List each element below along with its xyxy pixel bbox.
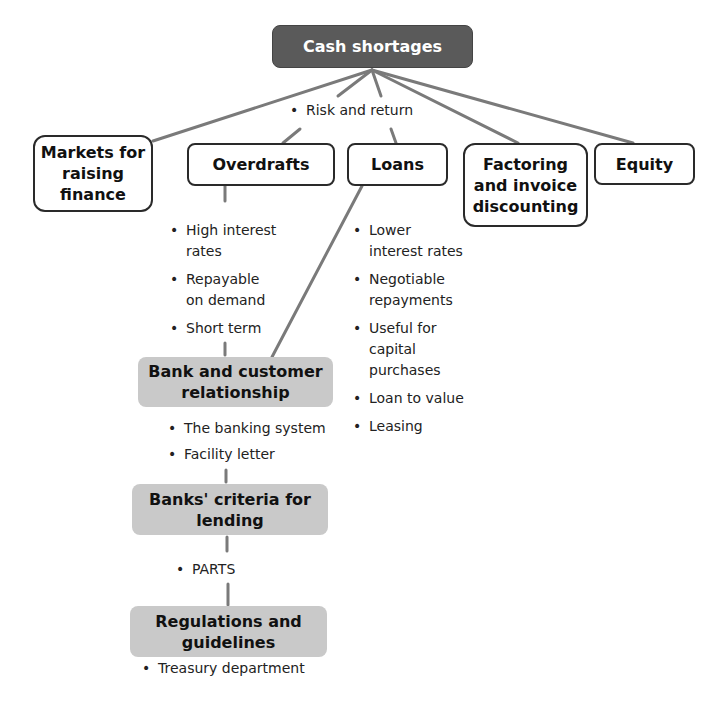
banks-criteria-points: PARTS bbox=[176, 559, 235, 587]
node-cash-shortages: Cash shortages bbox=[272, 25, 473, 68]
overdrafts-points: High interest rates Repayable on demand … bbox=[170, 220, 276, 346]
node-label: Regulations and guidelines bbox=[130, 611, 327, 653]
list-item: PARTS bbox=[176, 559, 235, 580]
list-item: Negotiable repayments bbox=[353, 269, 464, 311]
node-label: Factoring and invoice discounting bbox=[465, 154, 586, 217]
list-item: The banking system bbox=[168, 418, 326, 439]
connector-root-loans-b bbox=[391, 129, 396, 143]
connector-root-overdrafts-a bbox=[338, 70, 372, 96]
list-item: Loan to value bbox=[353, 388, 464, 409]
root-notes: Risk and return bbox=[290, 100, 413, 128]
node-bank-relationship: Bank and customer relationship bbox=[138, 357, 333, 407]
node-factoring: Factoring and invoice discounting bbox=[463, 143, 588, 227]
list-item: Useful for capital purchases bbox=[353, 318, 464, 381]
bank-relationship-points: The banking system Facility letter bbox=[168, 418, 326, 472]
node-label: Equity bbox=[616, 154, 673, 175]
list-item: Repayable on demand bbox=[170, 269, 276, 311]
node-label: Bank and customer relationship bbox=[138, 361, 333, 403]
node-overdrafts: Overdrafts bbox=[187, 143, 335, 186]
node-equity: Equity bbox=[594, 143, 695, 185]
loans-points: Lower interest rates Negotiable repaymen… bbox=[353, 220, 464, 444]
regulations-points: Treasury department bbox=[142, 658, 305, 686]
node-label: Overdrafts bbox=[212, 154, 309, 175]
connector-loans-bank bbox=[272, 186, 362, 357]
node-regulations: Regulations and guidelines bbox=[130, 606, 327, 657]
node-banks-criteria: Banks' criteria for lending bbox=[132, 484, 328, 535]
list-item: Short term bbox=[170, 318, 276, 339]
node-label: Markets for raising finance bbox=[35, 142, 151, 205]
list-item: Facility letter bbox=[168, 444, 326, 465]
list-item: Leasing bbox=[353, 416, 464, 437]
list-item: Treasury department bbox=[142, 658, 305, 679]
node-markets: Markets for raising finance bbox=[33, 135, 153, 212]
node-label: Banks' criteria for lending bbox=[132, 489, 328, 531]
list-item: Lower interest rates bbox=[353, 220, 464, 262]
list-item: Risk and return bbox=[290, 100, 413, 121]
connector-root-overdrafts-b bbox=[283, 129, 300, 143]
list-item: High interest rates bbox=[170, 220, 276, 262]
node-label: Cash shortages bbox=[303, 36, 442, 57]
node-label: Loans bbox=[371, 154, 424, 175]
node-loans: Loans bbox=[347, 143, 448, 186]
